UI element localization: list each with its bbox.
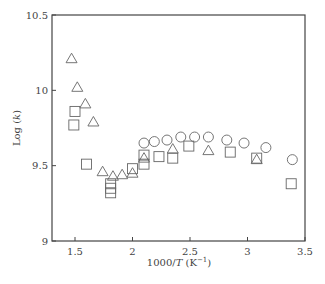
x-tick-label: 2.5 [182,246,198,257]
square-marker [168,153,178,163]
y-tick-label: 9 [42,236,48,247]
circle-marker [261,143,271,153]
triangle-marker [88,116,99,126]
square-marker [154,152,164,162]
circle-marker [149,137,159,147]
x-tick-label: 2 [129,246,135,257]
square-marker [69,120,79,130]
circle-marker [139,138,149,148]
triangle-marker [80,98,91,108]
circle-marker [176,132,186,142]
triangle-marker [72,82,83,92]
square-marker [184,141,194,151]
triangle-marker [117,169,128,179]
square-marker [70,106,80,116]
square-marker [139,159,149,169]
circle-marker [162,135,172,145]
y-axis-label: Log (k) [11,110,22,146]
circle-marker [287,155,297,165]
square-marker [225,147,235,157]
x-tick-label: 3 [244,246,250,257]
triangle-marker [251,154,262,164]
data-markers [66,53,297,198]
y-tick-label: 9.5 [32,160,48,171]
plot-frame [52,15,305,241]
square-marker [106,188,116,198]
square-marker [286,179,296,189]
triangle-marker [203,145,214,155]
y-tick-label: 10 [35,85,48,96]
plot-border [52,15,305,241]
square-marker [82,159,92,169]
x-tick-label: 1.5 [67,246,83,257]
y-tick-label: 10.5 [26,10,48,21]
scatter-chart: 1.522.533.599.51010.5 1000/T (K−1) Log (… [0,0,325,284]
square-marker [128,164,138,174]
circle-marker [222,135,232,145]
square-marker [106,183,116,193]
triangle-marker [97,166,108,176]
x-axis-label: 1000/T (K−1) [147,256,211,268]
triangle-marker [127,168,138,178]
circle-marker [239,138,249,148]
triangle-marker [66,53,77,63]
x-tick-label: 3.5 [297,246,313,257]
axis-ticks: 1.522.533.599.51010.5 [26,10,313,258]
circle-marker [203,132,213,142]
triangle-marker [139,153,150,163]
circle-marker [190,132,200,142]
